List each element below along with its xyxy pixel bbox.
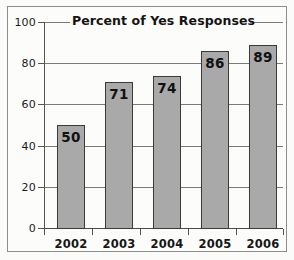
- chart-title: Percent of Yes Responses: [44, 13, 283, 28]
- bar-2004: [153, 76, 181, 229]
- y-axis-label-0: 0: [0, 222, 36, 235]
- x-tick-0: [44, 229, 45, 235]
- x-tick-4: [236, 229, 237, 235]
- figure-root: 100 80 60 40 20 0 50 71 74 86 89 2002 20…: [0, 0, 294, 260]
- y-axis-label-80: 80: [0, 57, 36, 70]
- bar-2005: [201, 51, 229, 229]
- x-tick-3: [188, 229, 189, 235]
- x-axis-label-2004: 2004: [140, 237, 194, 251]
- x-tick-1: [92, 229, 93, 235]
- bar-value-2004: 74: [150, 80, 184, 96]
- y-tick-60: [38, 104, 44, 105]
- x-axis-label-2003: 2003: [92, 237, 146, 251]
- x-axis-label-2006: 2006: [236, 237, 290, 251]
- bar-chart-plot-area: 100 80 60 40 20 0 50 71 74 86 89 2002 20…: [0, 0, 294, 260]
- bar-value-2005: 86: [198, 55, 232, 71]
- y-tick-80: [38, 63, 44, 64]
- y-axis-label-40: 40: [0, 140, 36, 153]
- y-axis-label-100: 100: [0, 16, 36, 29]
- bar-2006: [249, 45, 277, 229]
- bar-value-2002: 50: [54, 129, 88, 145]
- x-axis-label-2005: 2005: [188, 237, 242, 251]
- bar-value-2006: 89: [246, 49, 280, 65]
- y-axis-label-20: 20: [0, 181, 36, 194]
- y-axis-line: [44, 22, 45, 229]
- x-axis-label-2002: 2002: [44, 237, 98, 251]
- x-tick-2: [140, 229, 141, 235]
- y-tick-40: [38, 146, 44, 147]
- bar-value-2003: 71: [102, 86, 136, 102]
- x-tick-5: [283, 229, 284, 235]
- bar-2003: [105, 82, 133, 229]
- y-tick-20: [38, 187, 44, 188]
- y-axis-label-60: 60: [0, 98, 36, 111]
